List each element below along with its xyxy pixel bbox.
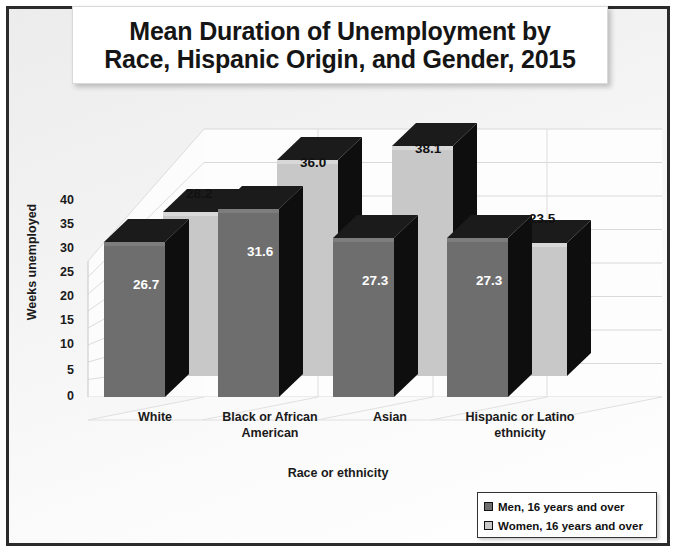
bar-men-asian: [333, 215, 418, 397]
chart-title: Mean Duration of Unemployment by Race, H…: [72, 6, 608, 84]
y-tick-20: 20: [48, 289, 74, 303]
legend-swatch-men-icon: [484, 502, 493, 511]
value-men-white: 26.7: [133, 277, 159, 292]
chart-legend: Men, 16 years and over Women, 16 years a…: [477, 492, 657, 538]
y-tick-25: 25: [48, 265, 74, 279]
legend-item-women[interactable]: Women, 16 years and over: [484, 516, 650, 535]
y-tick-30: 30: [48, 241, 74, 255]
y-axis-title: Weeks unemployed: [25, 202, 39, 322]
chart-container: Mean Duration of Unemployment by Race, H…: [0, 0, 676, 552]
value-women-white: 28.2: [186, 186, 212, 201]
value-men-hispanic: 27.3: [476, 273, 502, 288]
legend-label-women: Women, 16 years and over: [498, 520, 643, 532]
y-tick-10: 10: [48, 337, 74, 351]
y-tick-5: 5: [48, 363, 74, 377]
y-tick-35: 35: [48, 217, 74, 231]
x-label-asian: Asian: [330, 410, 450, 426]
value-men-black: 31.6: [247, 244, 273, 259]
chart-title-line-2: Race, Hispanic Origin, and Gender, 2015: [104, 45, 576, 73]
x-label-hispanic-or-latino: Hispanic or Latino ethnicity: [440, 410, 600, 441]
value-women-asian: 38.1: [415, 141, 441, 156]
value-men-asian: 27.3: [362, 273, 388, 288]
legend-item-men[interactable]: Men, 16 years and over: [484, 497, 650, 516]
x-axis-title: Race or ethnicity: [0, 466, 676, 480]
x-label-black-or-african-american: Black or African American: [200, 410, 340, 441]
bar-men-white: [104, 219, 189, 397]
y-tick-0: 0: [48, 389, 74, 403]
legend-label-men: Men, 16 years and over: [498, 501, 625, 513]
y-tick-40: 40: [48, 193, 74, 207]
bar-men-black: [218, 186, 303, 397]
legend-swatch-women-icon: [484, 521, 493, 530]
chart-title-line-1: Mean Duration of Unemployment by: [129, 17, 550, 45]
y-tick-15: 15: [48, 313, 74, 327]
value-women-black: 36.0: [300, 155, 326, 170]
value-women-hispanic: 23.5: [529, 211, 555, 226]
bar-men-hispanic: [447, 215, 532, 397]
